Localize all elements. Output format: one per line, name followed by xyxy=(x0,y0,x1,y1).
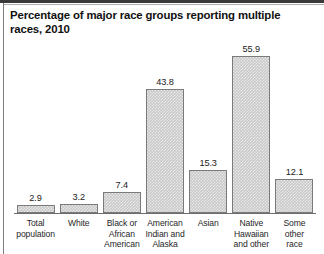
x-label-line: Native xyxy=(239,218,263,228)
x-label-line: population xyxy=(16,229,55,239)
bar-group-native-hawaiian-and-other: 55.9 xyxy=(230,44,273,213)
bar-series: 2.9 3.2 7.4 43.8 15.3 55.9 xyxy=(14,44,316,213)
bar-asian xyxy=(189,170,227,213)
x-label-line: American xyxy=(104,239,140,249)
x-label-white: White xyxy=(57,218,100,250)
bar-value-label: 2.9 xyxy=(29,193,41,203)
bar-american-indian-and-alaska xyxy=(146,89,184,213)
frame-top-rule xyxy=(0,0,324,3)
x-axis-category-labels: Totalpopulation White Black orAfricanAme… xyxy=(14,218,316,250)
bar-group-some-other-race: 12.1 xyxy=(273,44,316,213)
bar-value-label: 55.9 xyxy=(243,44,260,54)
bar-value-label: 43.8 xyxy=(156,77,173,87)
x-axis-line xyxy=(14,213,316,214)
x-label-line: Asian xyxy=(198,218,219,228)
bar-value-label: 7.4 xyxy=(116,180,128,190)
x-label-some-other-race: Someotherrace xyxy=(273,218,316,250)
bar-group-american-indian-and-alaska: 43.8 xyxy=(143,44,186,213)
frame-left-rule xyxy=(3,3,4,254)
bar-total-population xyxy=(17,205,55,213)
bar-value-label: 15.3 xyxy=(199,158,216,168)
bar-value-label: 12.1 xyxy=(286,167,303,177)
chart-figure: Percentage of major race groups reportin… xyxy=(0,0,324,254)
x-label-line: Some xyxy=(283,218,305,228)
x-label-line: African xyxy=(109,229,135,239)
x-label-line: Total xyxy=(27,218,45,228)
bar-native-hawaiian-and-other xyxy=(232,56,270,213)
x-label-total-population: Totalpopulation xyxy=(14,218,57,250)
frame-inner-top-rule xyxy=(3,4,324,5)
x-label-line: Indian and xyxy=(145,229,184,239)
x-label-line: race xyxy=(286,239,302,249)
bar-some-other-race xyxy=(275,179,313,213)
bar-value-label: 3.2 xyxy=(72,192,84,202)
x-label-line: and other xyxy=(234,239,269,249)
x-label-line: other xyxy=(285,229,304,239)
bar-group-white: 3.2 xyxy=(57,44,100,213)
bar-group-total-population: 2.9 xyxy=(14,44,57,213)
bar-group-asian: 15.3 xyxy=(187,44,230,213)
x-label-line: Alaska xyxy=(152,239,177,249)
bar-white xyxy=(60,204,98,213)
chart-title: Percentage of major race groups reportin… xyxy=(10,9,310,36)
plot-area: 2.9 3.2 7.4 43.8 15.3 55.9 xyxy=(14,44,316,214)
x-label-black-or-african-american: Black orAfricanAmerican xyxy=(100,218,143,250)
x-label-line: White xyxy=(68,218,89,228)
x-label-asian: Asian xyxy=(187,218,230,250)
bar-black-or-african-american xyxy=(103,192,141,213)
bar-group-black-or-african-american: 7.4 xyxy=(100,44,143,213)
x-label-native-hawaiian-and-other: NativeHawaiianand other xyxy=(230,218,273,250)
x-label-line: Black or xyxy=(107,218,137,228)
x-label-line: American xyxy=(147,218,183,228)
x-label-line: Hawaiian xyxy=(234,229,269,239)
x-label-american-indian-and-alaska: AmericanIndian andAlaska xyxy=(143,218,186,250)
